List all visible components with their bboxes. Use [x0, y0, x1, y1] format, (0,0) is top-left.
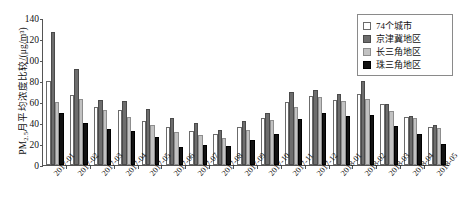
- bar-group: [282, 19, 306, 165]
- x-axis-tick: 2018-04: [401, 170, 425, 220]
- x-axis-tick: 2017-10: [257, 170, 281, 220]
- x-axis-tick: 2017-11: [281, 170, 305, 220]
- legend-swatch-icon: [363, 35, 371, 43]
- x-axis-tick: 2017-08: [210, 170, 234, 220]
- legend-item[interactable]: 珠三角地区: [363, 58, 448, 71]
- x-axis-tick: 2017-02: [66, 170, 90, 220]
- bar-group: [162, 19, 186, 165]
- x-axis-tick: 2017-06: [162, 170, 186, 220]
- x-axis-tick: 2018-05: [425, 170, 449, 220]
- bar-group: [306, 19, 330, 165]
- legend-item[interactable]: 74个城市: [363, 19, 448, 32]
- x-axis-tick: 2018-02: [353, 170, 377, 220]
- x-axis-tick: 2017-07: [186, 170, 210, 220]
- legend-item-label: 京津冀地区: [376, 32, 421, 45]
- legend-swatch-icon: [363, 48, 371, 56]
- bar-group: [67, 19, 91, 165]
- x-axis-tick: 2017-09: [234, 170, 258, 220]
- x-axis-tick: 2017-05: [138, 170, 162, 220]
- bar-group: [139, 19, 163, 165]
- y-axis-tick-mark: [40, 166, 43, 167]
- bar-group: [210, 19, 234, 165]
- bar-group: [258, 19, 282, 165]
- x-axis-tick: 2017-03: [90, 170, 114, 220]
- legend-swatch-icon: [363, 22, 371, 30]
- bar-group: [91, 19, 115, 165]
- bar-group: [330, 19, 354, 165]
- legend-item-label: 长三角地区: [376, 45, 421, 58]
- legend-item-label: 74个城市: [376, 19, 412, 32]
- x-axis-tick: 2018-01: [329, 170, 353, 220]
- x-axis-ticks: 2017-012017-022017-032017-042017-052017-…: [42, 170, 449, 220]
- chart-legend: 74个城市京津冀地区长三角地区珠三角地区: [357, 14, 453, 76]
- x-axis-tick: 2017-01: [42, 170, 66, 220]
- bar-group: [115, 19, 139, 165]
- x-axis-tick: 2017-04: [114, 170, 138, 220]
- bar-group: [43, 19, 67, 165]
- legend-swatch-icon: [363, 61, 371, 69]
- legend-item[interactable]: 长三角地区: [363, 45, 448, 58]
- bar-group: [186, 19, 210, 165]
- x-axis-tick: 2017-12: [305, 170, 329, 220]
- x-axis-tick: 2018-03: [377, 170, 401, 220]
- legend-item-label: 珠三角地区: [376, 58, 421, 71]
- y-axis-title-subscript: 2.5: [22, 132, 29, 141]
- y-axis-title-prefix: PM: [18, 141, 28, 155]
- bar-group: [234, 19, 258, 165]
- legend-item[interactable]: 京津冀地区: [363, 32, 448, 45]
